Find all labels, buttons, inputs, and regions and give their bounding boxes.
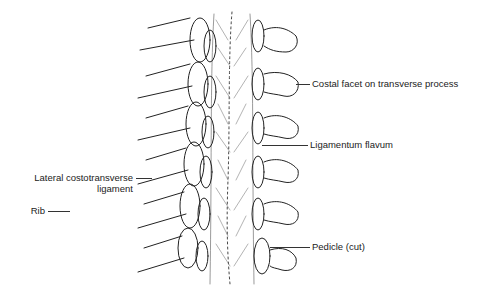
leader-pedicle <box>270 247 310 248</box>
leader-lateral-costotransverse <box>136 178 152 179</box>
label-lateral-costotransverse-line1: Lateral costotransverse <box>34 172 133 183</box>
label-lateral-costotransverse-line2: ligament <box>97 183 133 194</box>
leader-rib <box>48 211 70 212</box>
label-lateral-costotransverse: Lateral costotransverse ligament <box>34 172 133 194</box>
spine-illustration <box>0 0 496 294</box>
label-pedicle: Pedicle (cut) <box>312 241 365 252</box>
label-rib: Rib <box>31 205 45 216</box>
label-ligamentum-flavum: Ligamentum flavum <box>310 139 393 150</box>
leader-ligamentum-flavum <box>262 145 308 146</box>
label-costal-facet: Costal facet on transverse process <box>312 78 458 89</box>
leader-costal-facet <box>296 84 310 85</box>
